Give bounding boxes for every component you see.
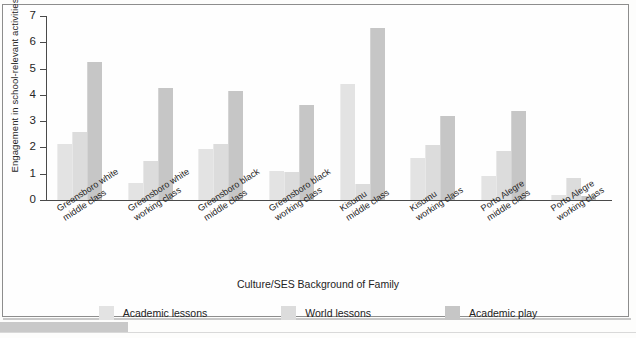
bar <box>340 84 355 200</box>
y-axis-tick <box>40 200 46 201</box>
legend-swatch <box>445 306 460 320</box>
legend-item: World lessons <box>281 306 371 320</box>
legend-swatch <box>281 306 296 320</box>
legend-label: World lessons <box>305 307 371 319</box>
scan-edge-line <box>0 332 636 333</box>
scan-edge-artifact <box>0 322 128 332</box>
legend-label: Academic lessons <box>123 307 208 319</box>
bar <box>198 149 213 200</box>
chart-legend: Academic lessonsWorld lessonsAcademic pl… <box>0 306 636 320</box>
y-axis-tick-label: 0 <box>14 194 36 206</box>
bar <box>370 28 385 200</box>
bar <box>57 144 72 201</box>
legend-swatch <box>99 306 114 320</box>
x-axis-title: Culture/SES Background of Family <box>0 278 636 290</box>
chart-page: 01234567 Engagement in school-relevant a… <box>0 0 636 338</box>
legend-label: Academic play <box>469 307 537 319</box>
legend-item: Academic lessons <box>99 306 208 320</box>
bar <box>410 158 425 200</box>
legend-item: Academic play <box>445 306 537 320</box>
y-axis-title: Engagement in school-relevant activities <box>9 0 20 173</box>
